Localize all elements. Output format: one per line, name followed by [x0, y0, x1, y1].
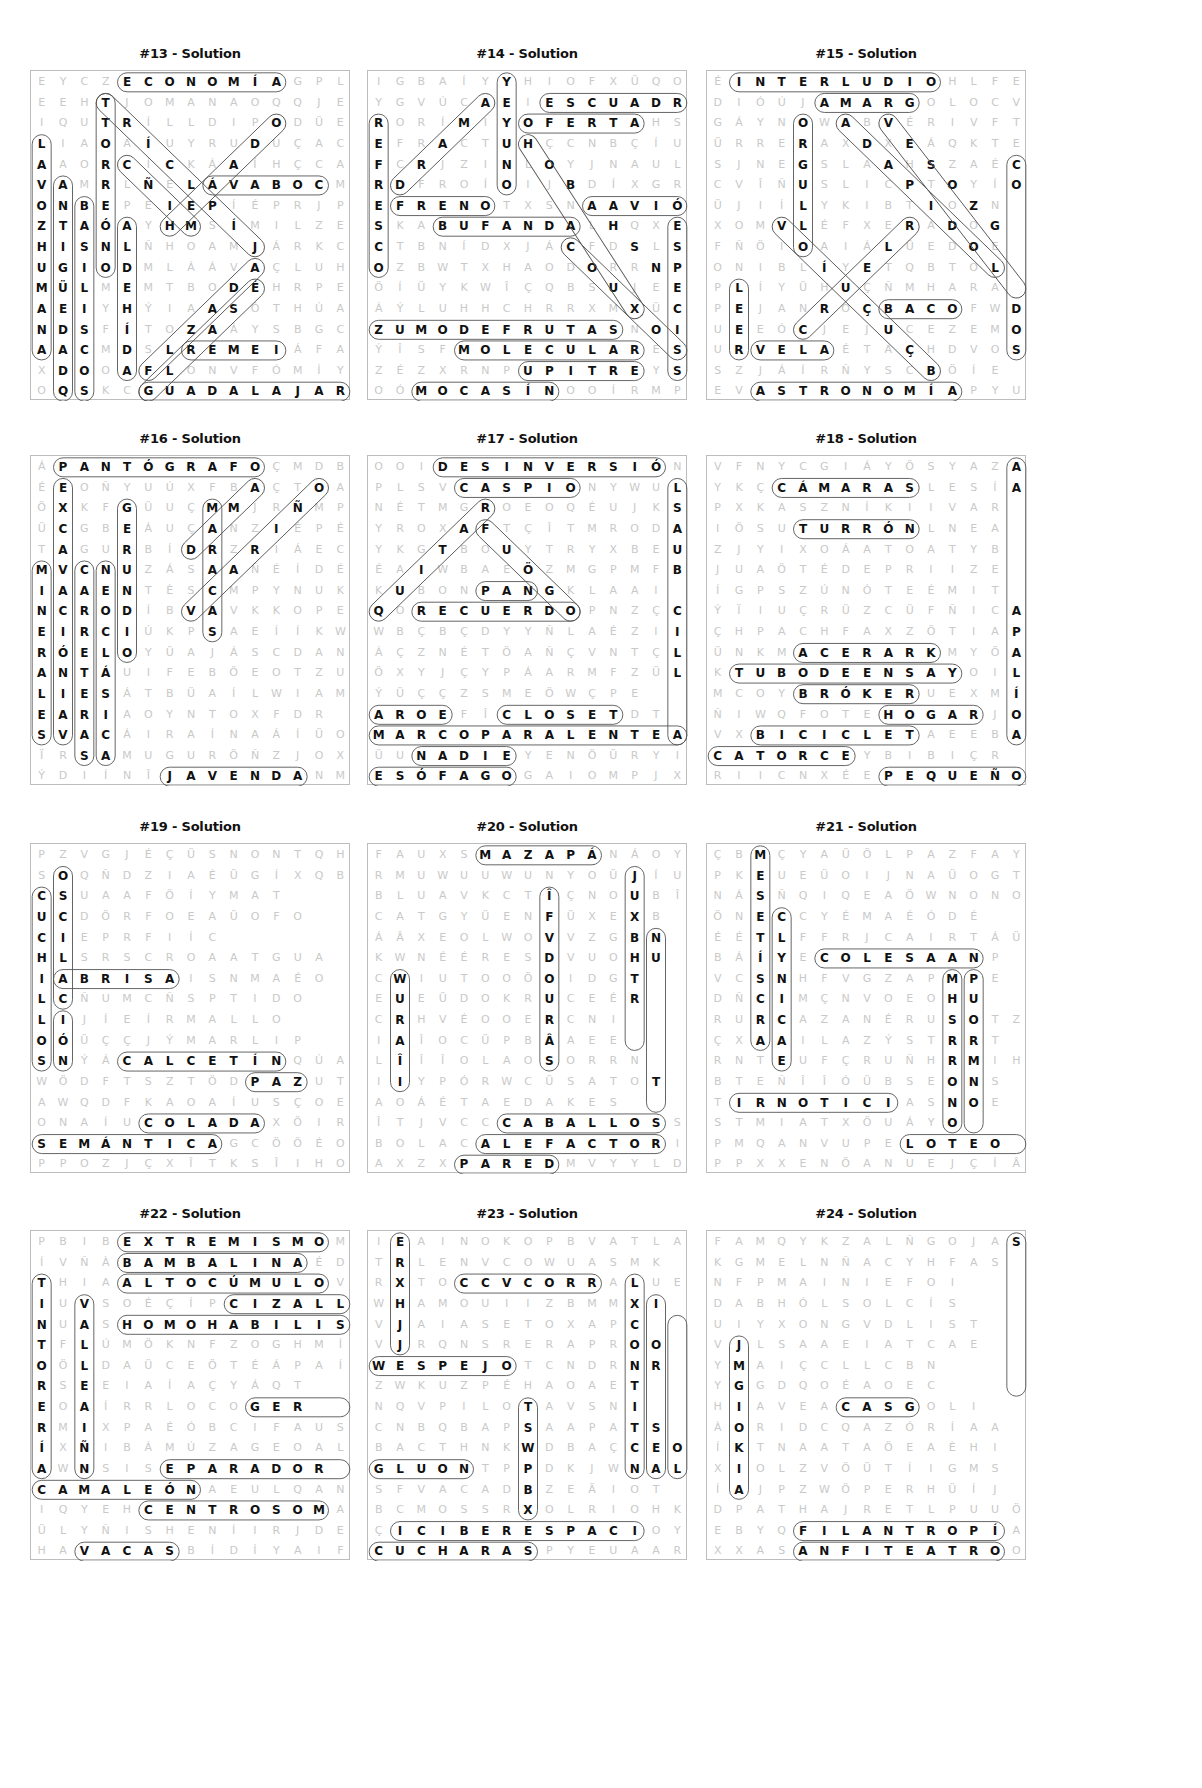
grid-cell: C [453, 1134, 474, 1155]
grid-cell: H [707, 1397, 728, 1418]
grid-cell: C [560, 989, 581, 1010]
grid-cell: B [624, 540, 645, 561]
grid-cell: M [899, 381, 920, 402]
grid-cell: Z [202, 1438, 223, 1459]
grid-cell: A [223, 622, 244, 643]
grid-cell: Á [138, 1438, 159, 1459]
grid-cell: O [984, 1541, 1005, 1562]
grid-cell: R [31, 1418, 52, 1439]
grid-cell: E [963, 766, 984, 787]
grid-cell: Ö [707, 907, 728, 928]
grid-cell: F [984, 113, 1005, 134]
grid-cell: M [308, 1335, 329, 1356]
grid-cell: A [223, 93, 244, 114]
grid-cell: T [496, 519, 517, 540]
grid-cell: X [52, 1438, 73, 1459]
grid-cell: I [74, 1232, 95, 1253]
grid-cell: Ç [645, 643, 666, 664]
grid-cell [963, 1356, 984, 1377]
grid-cell: Ü [707, 643, 728, 664]
grid-cell: A [539, 845, 560, 866]
grid-cell: R [560, 299, 581, 320]
grid-cell: Í [266, 622, 287, 643]
grid-cell: I [52, 928, 73, 949]
grid-cell: Á [899, 1113, 920, 1134]
grid-cell: T [1006, 113, 1027, 134]
grid-cell: Y [411, 663, 432, 684]
grid-cell: J [432, 155, 453, 176]
grid-cell: S [707, 1113, 728, 1134]
grid-cell: V [539, 928, 560, 949]
grid-cell: A [750, 1031, 771, 1052]
grid-cell: Y [835, 258, 856, 279]
grid-cell: M [223, 72, 244, 93]
grid-cell: L [159, 1397, 180, 1418]
grid-cell: K [560, 581, 581, 602]
grid-cell [1006, 969, 1027, 990]
grid-cell: E [159, 1500, 180, 1521]
grid-cell: Ç [792, 1356, 813, 1377]
grid-cell: L [942, 1397, 963, 1418]
grid-cell: B [878, 746, 899, 767]
grid-cell: O [963, 258, 984, 279]
grid-cell: A [963, 1418, 984, 1439]
grid-cell [667, 705, 688, 726]
grid-cell: S [814, 155, 835, 176]
grid-cell: V [624, 196, 645, 217]
grid-cell: D [814, 663, 835, 684]
grid-cell: Z [878, 1418, 899, 1439]
grid-cell: O [814, 705, 835, 726]
grid-cell: P [517, 1459, 538, 1480]
grid-cell: K [560, 1093, 581, 1114]
grid-cell: E [74, 1376, 95, 1397]
grid-cell: N [603, 643, 624, 664]
grid-cell: O [368, 258, 389, 279]
grid-cell: X [878, 622, 899, 643]
grid-cell: Ü [899, 601, 920, 622]
grid-cell: T [432, 540, 453, 561]
grid-cell: E [95, 1376, 116, 1397]
grid-cell: P [453, 1154, 474, 1175]
grid-cell: C [330, 540, 351, 561]
grid-cell: I [52, 237, 73, 258]
grid-cell: P [475, 725, 496, 746]
grid-cell: U [645, 155, 666, 176]
grid-cell: I [942, 1273, 963, 1294]
grid-cell: A [116, 705, 137, 726]
grid-cell: E [244, 663, 265, 684]
grid-cell: T [899, 1335, 920, 1356]
grid-cell: A [74, 1113, 95, 1134]
grid-cell: O [539, 258, 560, 279]
grid-cell: V [52, 1253, 73, 1274]
grid-cell: O [266, 113, 287, 134]
grid-cell: X [771, 1154, 792, 1175]
grid-cell: A [814, 1438, 835, 1459]
grid-cell: T [645, 1072, 666, 1093]
grid-cell: A [180, 725, 201, 746]
grid-cell: J [645, 766, 666, 787]
grid-cell: B [645, 886, 666, 907]
grid-cell: T [223, 1051, 244, 1072]
grid-cell: S [771, 1541, 792, 1562]
grid-cell: R [74, 622, 95, 643]
grid-cell [330, 948, 351, 969]
grid-cell: M [771, 1273, 792, 1294]
grid-cell: I [74, 299, 95, 320]
grid-cell: C [368, 1010, 389, 1031]
grid-cell: N [835, 581, 856, 602]
grid-cell: E [159, 175, 180, 196]
grid-cell: O [308, 478, 329, 499]
grid-cell: L [52, 1521, 73, 1542]
grid-cell: I [771, 1113, 792, 1134]
grid-cell: T [792, 519, 813, 540]
grid-cell: O [856, 1294, 877, 1315]
grid-cell: P [963, 381, 984, 402]
grid-cell: Z [223, 540, 244, 561]
grid-cell: R [159, 1010, 180, 1031]
grid-cell: É [835, 340, 856, 361]
grid-cell: S [667, 340, 688, 361]
letter-grid: IGBAÍYYHIOFXÜQOYGVÚCAEIESCUADRRORÍMIYOFE… [367, 70, 687, 400]
grid-cell: I [771, 1418, 792, 1439]
grid-cell: X [138, 1232, 159, 1253]
grid-cell: T [266, 299, 287, 320]
